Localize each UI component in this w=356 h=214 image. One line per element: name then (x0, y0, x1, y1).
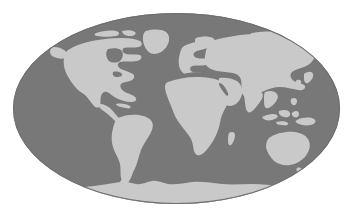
world-map-svg (0, 0, 356, 214)
water-hudson-bay (106, 48, 123, 62)
world-map-figure (0, 0, 356, 214)
